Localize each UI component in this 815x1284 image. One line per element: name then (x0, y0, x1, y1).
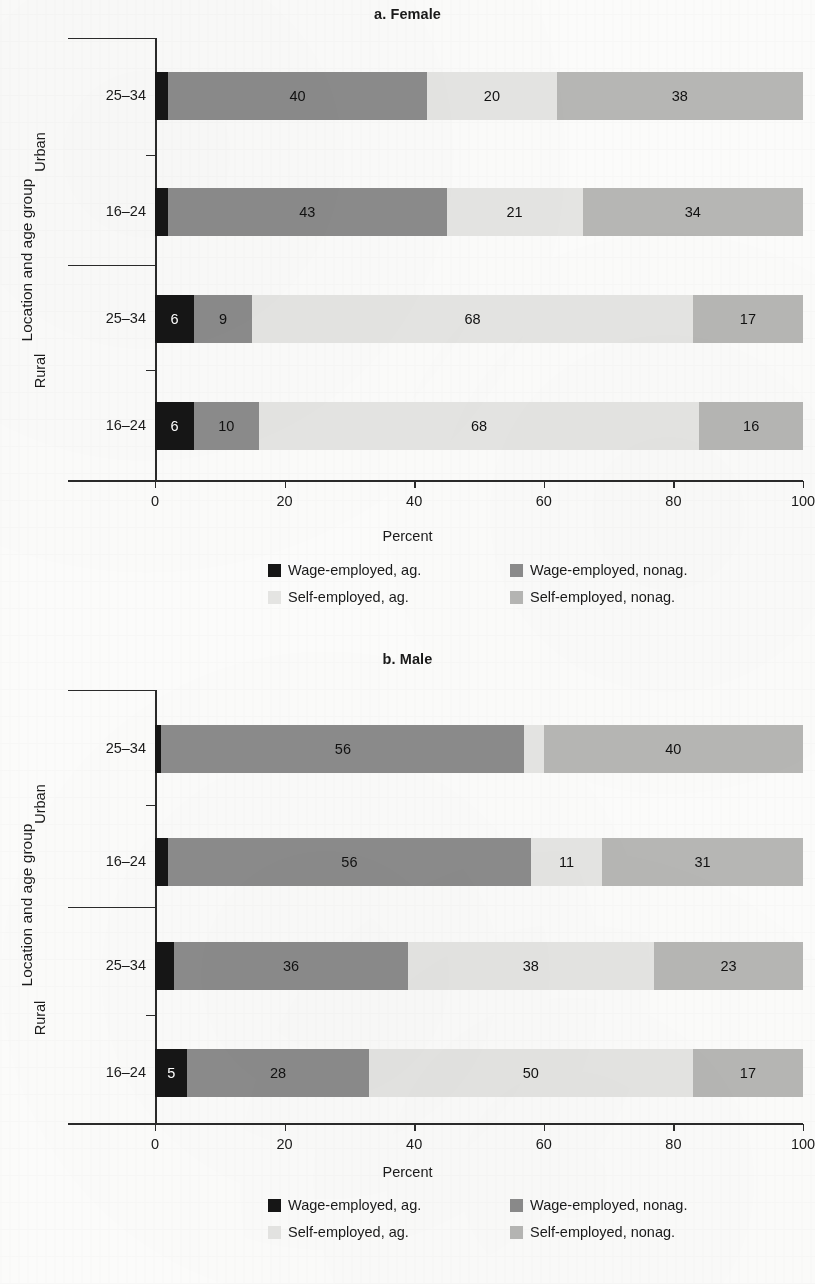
bar-segment[interactable]: 28 (187, 1049, 368, 1097)
legend-swatch-icon (510, 1199, 523, 1212)
bar-segment[interactable]: 40 (544, 725, 803, 773)
chart-panel-male: b. Male 020406080100564025–3456113116–24… (0, 645, 815, 1284)
bar-segment[interactable]: 23 (654, 942, 803, 990)
bar-segment[interactable]: 43 (168, 188, 447, 236)
y-axis-title-female: Location and age group (18, 145, 36, 375)
group-divider-line (68, 38, 157, 39)
bar-segment[interactable]: 36 (174, 942, 407, 990)
bar-segment[interactable] (524, 725, 543, 773)
age-group-tick (146, 805, 156, 806)
bar-segment[interactable] (155, 72, 168, 120)
bar-segment[interactable] (155, 188, 168, 236)
y-axis-tick-label: 16–24 (60, 853, 146, 869)
legend-item[interactable]: Self-employed, ag. (268, 1224, 409, 1240)
age-group-tick (146, 1015, 156, 1016)
bar-segment[interactable]: 6 (155, 295, 194, 343)
x-axis-tick (285, 1124, 286, 1131)
x-axis-tick-label: 100 (773, 1136, 815, 1152)
x-axis-tick-label: 80 (643, 1136, 703, 1152)
x-axis-tick (155, 481, 156, 488)
legend-swatch-icon (268, 1226, 281, 1239)
stacked-bar[interactable]: 696817 (155, 295, 803, 343)
plot-area-male: 020406080100564025–3456113116–2436382325… (0, 645, 815, 1157)
x-axis-tick-label: 60 (514, 1136, 574, 1152)
y-axis-tick-label: 25–34 (60, 87, 146, 103)
bar-segment[interactable]: 20 (427, 72, 557, 120)
bar-segment[interactable]: 50 (369, 1049, 693, 1097)
x-axis-tick-label: 20 (255, 1136, 315, 1152)
stacked-bar[interactable]: 6106816 (155, 402, 803, 450)
bar-segment[interactable]: 38 (557, 72, 803, 120)
group-divider-line (68, 265, 157, 266)
x-axis-title-male: Percent (0, 1164, 815, 1180)
y-axis-title-male: Location and age group (18, 790, 36, 1020)
x-axis-tick-label: 40 (384, 493, 444, 509)
bar-segment[interactable]: 21 (447, 188, 583, 236)
bar-segment[interactable]: 68 (259, 402, 700, 450)
legend-label: Self-employed, ag. (288, 1224, 409, 1240)
x-axis-tick-label: 20 (255, 493, 315, 509)
legend-label: Self-employed, ag. (288, 589, 409, 605)
y-axis-tick-label: 16–24 (60, 417, 146, 433)
stacked-bar[interactable]: 561131 (155, 838, 803, 886)
x-axis-title-female: Percent (0, 528, 815, 544)
bar-segment[interactable]: 38 (408, 942, 654, 990)
legend-swatch-icon (268, 591, 281, 604)
bar-segment[interactable]: 17 (693, 295, 803, 343)
bar-segment[interactable]: 17 (693, 1049, 803, 1097)
x-axis-line (68, 1123, 803, 1125)
group-divider-line (68, 907, 157, 908)
bar-segment[interactable]: 5 (155, 1049, 187, 1097)
bar-segment[interactable]: 9 (194, 295, 252, 343)
legend-male: Wage-employed, ag.Wage-employed, nonag.S… (0, 1197, 815, 1259)
stacked-bar[interactable]: 432134 (155, 188, 803, 236)
bar-segment[interactable] (155, 942, 174, 990)
x-axis-tick (673, 481, 674, 488)
bar-segment[interactable] (155, 838, 168, 886)
x-axis-tick (414, 481, 415, 488)
legend-item[interactable]: Self-employed, nonag. (510, 589, 675, 605)
x-axis-tick (803, 481, 804, 488)
x-axis-tick-label: 60 (514, 493, 574, 509)
bar-segment[interactable]: 6 (155, 402, 194, 450)
x-axis-line (68, 480, 803, 482)
x-axis-tick (155, 1124, 156, 1131)
stacked-bar[interactable]: 5640 (155, 725, 803, 773)
legend-item[interactable]: Wage-employed, ag. (268, 562, 421, 578)
y-axis-tick-label: 16–24 (60, 203, 146, 219)
bar-segment[interactable]: 56 (168, 838, 531, 886)
y-axis-tick-label: 25–34 (60, 310, 146, 326)
legend-item[interactable]: Wage-employed, nonag. (510, 562, 687, 578)
bar-segment[interactable]: 68 (252, 295, 693, 343)
bar-segment[interactable]: 56 (161, 725, 524, 773)
legend-label: Self-employed, nonag. (530, 1224, 675, 1240)
y-axis-tick-label: 16–24 (60, 1064, 146, 1080)
bar-segment[interactable]: 11 (531, 838, 602, 886)
x-axis-tick-label: 0 (125, 1136, 185, 1152)
x-axis-tick (673, 1124, 674, 1131)
stacked-bar[interactable]: 363823 (155, 942, 803, 990)
legend-label: Wage-employed, nonag. (530, 1197, 687, 1213)
group-divider-line (68, 690, 157, 691)
legend-item[interactable]: Wage-employed, ag. (268, 1197, 421, 1213)
x-axis-tick-label: 40 (384, 1136, 444, 1152)
legend-label: Self-employed, nonag. (530, 589, 675, 605)
x-axis-tick (544, 481, 545, 488)
legend-swatch-icon (268, 564, 281, 577)
age-group-tick (146, 370, 156, 371)
stacked-bar[interactable]: 402038 (155, 72, 803, 120)
bar-segment[interactable]: 34 (583, 188, 803, 236)
bar-segment[interactable]: 40 (168, 72, 427, 120)
stacked-bar[interactable]: 5285017 (155, 1049, 803, 1097)
legend-swatch-icon (510, 1226, 523, 1239)
bar-segment[interactable]: 31 (602, 838, 803, 886)
legend-item[interactable]: Wage-employed, nonag. (510, 1197, 687, 1213)
legend-label: Wage-employed, ag. (288, 562, 421, 578)
bar-segment[interactable]: 16 (699, 402, 803, 450)
legend-swatch-icon (268, 1199, 281, 1212)
y-axis-tick-label: 25–34 (60, 957, 146, 973)
legend-item[interactable]: Self-employed, ag. (268, 589, 409, 605)
bar-segment[interactable]: 10 (194, 402, 259, 450)
legend-item[interactable]: Self-employed, nonag. (510, 1224, 675, 1240)
legend-female: Wage-employed, ag.Wage-employed, nonag.S… (0, 562, 815, 624)
